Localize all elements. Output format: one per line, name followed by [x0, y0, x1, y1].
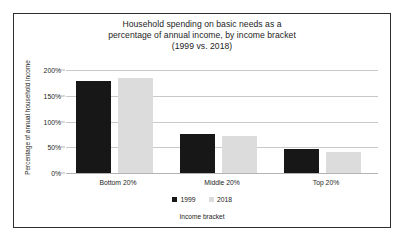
y-axis-title: Percentage of annual household income [24, 54, 31, 182]
chart-title-line-2: percentage of annual income, by income b… [14, 30, 390, 41]
chart-title-line-3: (1999 vs. 2018) [14, 41, 390, 52]
x-category-label-1: Middle 20% [170, 179, 274, 186]
bar-group-bottom-20: Bottom 20% [66, 70, 170, 173]
y-tick-label-0: 0% [51, 170, 61, 177]
bar-group-top-20: Top 20% [274, 70, 378, 173]
bar-1999-middle-20[interactable] [180, 134, 215, 173]
bar-2018-middle-20[interactable] [222, 136, 257, 173]
legend-item-2018[interactable]: 2018 [209, 196, 233, 203]
bar-2018-top-20[interactable] [326, 152, 361, 173]
bar-2018-bottom-20[interactable] [118, 78, 153, 173]
chart-legend: 1999 2018 [14, 196, 390, 203]
chart-title-line-1: Household spending on basic needs as a [14, 19, 390, 30]
y-tick-label-150: 150% [44, 92, 61, 99]
y-tick-dash-100 [61, 121, 65, 122]
bar-1999-top-20[interactable] [284, 149, 319, 173]
x-category-label-2: Top 20% [274, 179, 378, 186]
x-axis-title: Income bracket [14, 213, 390, 220]
y-tick-label-200: 200% [44, 67, 61, 74]
legend-label-2018: 2018 [217, 196, 232, 203]
plot-area: 200% 150% 100% 50% 0% Bottom 20% Middle … [66, 70, 378, 173]
y-tick-dash-150 [61, 95, 65, 96]
x-category-label-0: Bottom 20% [66, 179, 170, 186]
y-tick-label-50: 50% [47, 144, 61, 151]
legend-swatch-icon-1999 [172, 197, 177, 202]
legend-item-1999[interactable]: 1999 [172, 196, 196, 203]
chart-figure-frame: Household spending on basic needs as a p… [13, 13, 391, 228]
y-tick-dash-0 [61, 173, 65, 174]
chart-title: Household spending on basic needs as a p… [14, 19, 390, 53]
legend-label-1999: 1999 [180, 196, 195, 203]
legend-swatch-icon-2018 [209, 197, 214, 202]
y-tick-label-100: 100% [44, 118, 61, 125]
bar-1999-bottom-20[interactable] [76, 81, 111, 173]
bars-layer: Bottom 20% Middle 20% Top 20% [66, 70, 378, 173]
y-tick-dash-50 [61, 147, 65, 148]
y-tick-dash-200 [61, 70, 65, 71]
gridline-baseline-0 [66, 173, 378, 174]
bar-group-middle-20: Middle 20% [170, 70, 274, 173]
